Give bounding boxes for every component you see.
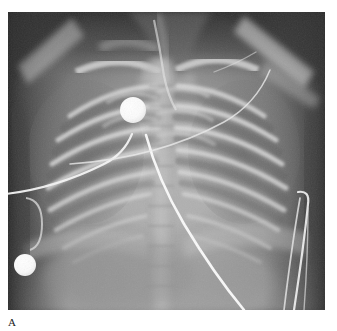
film-grain — [8, 12, 325, 310]
xray-render-surface — [8, 12, 325, 310]
panel-label-a: A — [8, 316, 16, 328]
chest-xray-image — [8, 12, 325, 310]
caption-fragment — [0, 0, 337, 9]
